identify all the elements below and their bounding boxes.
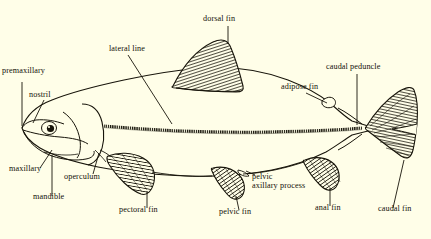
label-caudal-fin: caudal fin <box>378 204 412 213</box>
anal-fin <box>303 158 339 191</box>
label-pelvic-fin: pelvic fin <box>219 207 251 216</box>
adipose-fin <box>322 97 336 107</box>
label-maxillary: maxillary <box>9 164 41 173</box>
fish-eye-highlight <box>48 126 50 128</box>
label-premaxillary: premaxillary <box>2 66 45 75</box>
fish-anatomy-diagram: premaxillary nostril maxillary mandible … <box>0 0 431 239</box>
label-nostril: nostril <box>29 90 51 99</box>
leader-caudal-fin <box>393 160 404 208</box>
label-operculum: operculum <box>64 172 100 181</box>
label-mandible: mandible <box>33 192 64 201</box>
caudal-fin <box>365 88 417 158</box>
label-anal-fin: anal fin <box>315 203 341 212</box>
dorsal-fin <box>172 40 243 92</box>
label-adipose-fin: adipose fin <box>281 82 318 91</box>
label-pelvic-axillary-line1: pelvic <box>252 172 305 181</box>
label-pectoral-fin: pectoral fin <box>119 205 158 214</box>
fish-drawing <box>0 0 431 239</box>
label-pelvic-axillary-line2: axillary process <box>252 181 305 190</box>
label-caudal-peduncle: caudal peduncle <box>326 62 380 71</box>
label-dorsal-fin: dorsal fin <box>203 14 235 23</box>
fish-eye-pupil <box>47 125 54 132</box>
label-lateral-line: lateral line <box>109 44 145 53</box>
label-pelvic-axillary-process: pelvic axillary process <box>252 172 305 190</box>
